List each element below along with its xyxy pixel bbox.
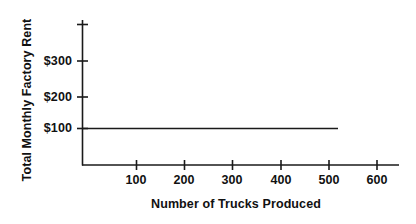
- y-tick-label-300: $300: [26, 54, 72, 68]
- x-tick-label-300: 300: [212, 173, 252, 187]
- x-tick-label-200: 200: [164, 173, 204, 187]
- y-tick-label-200: $200: [26, 90, 72, 104]
- x-tick-label-400: 400: [261, 173, 301, 187]
- x-tick-label-500: 500: [309, 173, 349, 187]
- y-tick-label-100: $100: [26, 121, 72, 135]
- x-tick-label-100: 100: [116, 173, 156, 187]
- chart-plot-area: [0, 0, 416, 224]
- x-axis-title: Number of Trucks Produced: [86, 197, 386, 211]
- chart-figure: Total Monthly Factory Rent Number of Tru…: [0, 0, 416, 224]
- x-tick-label-600: 600: [357, 173, 397, 187]
